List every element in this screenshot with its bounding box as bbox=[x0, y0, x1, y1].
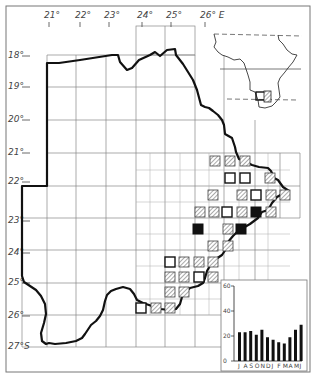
hatched-square-record bbox=[240, 156, 250, 166]
latitude-label: 18° bbox=[8, 50, 24, 60]
y-tick-label: 20 bbox=[223, 332, 231, 339]
hatched-square-record bbox=[179, 272, 189, 282]
open-square-record bbox=[251, 190, 261, 200]
bar bbox=[244, 332, 247, 361]
bar bbox=[272, 340, 275, 361]
latitude-label: 19° bbox=[8, 81, 24, 91]
open-square-record bbox=[240, 173, 250, 183]
month-label: O bbox=[255, 362, 260, 369]
hatched-square-record bbox=[209, 207, 219, 217]
hatched-square-record bbox=[265, 173, 275, 183]
bar bbox=[283, 344, 286, 362]
hatched-square-record bbox=[237, 190, 247, 200]
bar bbox=[294, 330, 297, 361]
hatched-square-record bbox=[194, 257, 204, 267]
month-label: D bbox=[266, 362, 271, 369]
bar bbox=[238, 332, 241, 361]
latitude-label: 27°S bbox=[8, 341, 30, 351]
bar bbox=[255, 335, 258, 361]
inset-range-hatched bbox=[264, 91, 271, 102]
distribution-map-figure: 21°22°23°24°25°26° E 18°19°20°21°22°23°2… bbox=[0, 0, 314, 381]
hatched-square-record bbox=[237, 207, 247, 217]
month-label: S bbox=[249, 362, 253, 369]
x-axis-month-labels: JASONDJFMAMJ bbox=[237, 362, 302, 370]
hatched-square-record bbox=[208, 241, 218, 251]
month-label: N bbox=[260, 362, 265, 369]
y-tick-label: 40 bbox=[223, 307, 231, 314]
open-square-record bbox=[194, 272, 204, 282]
monthly-bar-chart: 0204060 JASONDJFMAMJ bbox=[221, 280, 307, 371]
latitude-label: 20° bbox=[8, 114, 24, 124]
open-square-record bbox=[222, 207, 232, 217]
hatched-square-record bbox=[266, 207, 276, 217]
longitude-label: 24° bbox=[137, 10, 153, 20]
month-label: M bbox=[283, 362, 288, 369]
hatched-square-record bbox=[195, 207, 205, 217]
tropic-of-cancer-line bbox=[214, 34, 302, 36]
latitude-label: 22° bbox=[8, 176, 24, 186]
hatched-square-record bbox=[179, 287, 189, 297]
bar bbox=[260, 330, 263, 361]
longitude-label: 21° bbox=[44, 10, 60, 20]
filled-square-record bbox=[236, 224, 246, 234]
bar bbox=[300, 325, 303, 361]
longitude-label: 26° E bbox=[200, 10, 225, 20]
hatched-square-record bbox=[179, 257, 189, 267]
latitude-label: 25° bbox=[8, 277, 24, 287]
hatched-square-record bbox=[280, 190, 290, 200]
hatched-square-record bbox=[165, 287, 175, 297]
hatched-square-record bbox=[151, 303, 161, 313]
hatched-square-record bbox=[223, 224, 233, 234]
open-square-record bbox=[136, 303, 146, 313]
y-tick-label: 0 bbox=[223, 357, 227, 364]
map-canvas: 21°22°23°24°25°26° E 18°19°20°21°22°23°2… bbox=[0, 0, 314, 381]
filled-square-record bbox=[251, 207, 261, 217]
hatched-square-record bbox=[210, 156, 220, 166]
latitude-label: 26° bbox=[8, 310, 24, 320]
hatched-square-record bbox=[208, 272, 218, 282]
open-square-record bbox=[225, 173, 235, 183]
bar bbox=[249, 331, 252, 361]
month-label: M bbox=[294, 362, 299, 369]
month-label: J bbox=[299, 362, 302, 370]
longitude-label: 22° bbox=[75, 10, 91, 20]
y-tick-label: 60 bbox=[223, 282, 231, 289]
hatched-square-record bbox=[208, 257, 218, 267]
hatched-square-record bbox=[266, 190, 276, 200]
longitude-labels: 21°22°23°24°25°26° E bbox=[44, 10, 225, 27]
month-label: J bbox=[271, 362, 274, 370]
hatched-square-record bbox=[208, 190, 218, 200]
bar bbox=[277, 342, 280, 361]
africa-inset-map bbox=[214, 34, 302, 108]
hatched-square-record bbox=[165, 272, 175, 282]
hatched-square-record bbox=[225, 156, 235, 166]
filled-square-record bbox=[193, 224, 203, 234]
longitude-label: 25° bbox=[166, 10, 182, 20]
hatched-square-record bbox=[165, 303, 175, 313]
latitude-label: 21° bbox=[8, 147, 24, 157]
hatched-square-record bbox=[223, 241, 233, 251]
latitude-labels: 18°19°20°21°22°23°24°25°26°27°S bbox=[8, 50, 30, 351]
month-label: F bbox=[277, 362, 281, 369]
open-square-record bbox=[165, 257, 175, 267]
bar bbox=[288, 337, 291, 361]
month-label: J bbox=[237, 362, 240, 370]
bar bbox=[266, 337, 269, 361]
longitude-label: 23° bbox=[104, 10, 120, 20]
